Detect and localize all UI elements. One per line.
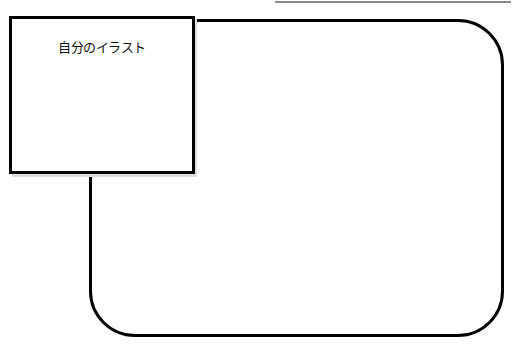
illustration-box: 自分のイラスト [9, 16, 195, 174]
illustration-label: 自分のイラスト [12, 37, 192, 56]
top-divider-line [275, 1, 511, 3]
